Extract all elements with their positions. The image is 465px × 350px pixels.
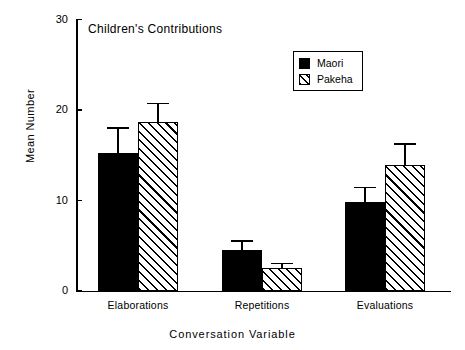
x-axis-title: Conversation Variable [0, 328, 465, 340]
bar-maori-elaborations [98, 153, 138, 291]
bar-pakeha-repetitions [262, 268, 302, 291]
error-bar-cap [107, 127, 129, 129]
error-bar-stem [364, 187, 366, 202]
error-bar-cap [147, 103, 169, 105]
bar-pakeha-evaluations [385, 165, 425, 291]
legend: Maori Pakeha [293, 51, 363, 91]
category-label-repetitions: Repetitions [202, 299, 322, 311]
legend-swatch-maori-icon [299, 58, 310, 69]
category-label-evaluations: Evaluations [325, 299, 445, 311]
legend-swatch-pakeha-icon [299, 74, 310, 85]
legend-item-maori: Maori [299, 56, 357, 70]
legend-label-pakeha: Pakeha [317, 74, 353, 85]
error-bar-stem [404, 143, 406, 165]
chart-figure: Mean Number Children's Contributions 010… [0, 0, 465, 350]
legend-item-pakeha: Pakeha [299, 72, 357, 86]
bar-maori-evaluations [345, 202, 385, 291]
error-bar-cap [394, 143, 416, 145]
error-bar-stem [117, 127, 119, 153]
error-bar-cap [231, 240, 253, 242]
bar-pakeha-elaborations [138, 122, 178, 291]
category-label-elaborations: Elaborations [78, 299, 198, 311]
legend-label-maori: Maori [317, 58, 343, 69]
error-bar-stem [157, 103, 159, 122]
bar-maori-repetitions [222, 250, 262, 291]
plot-area [0, 0, 465, 350]
error-bar-cap [354, 187, 376, 189]
error-bar-cap [271, 263, 293, 265]
